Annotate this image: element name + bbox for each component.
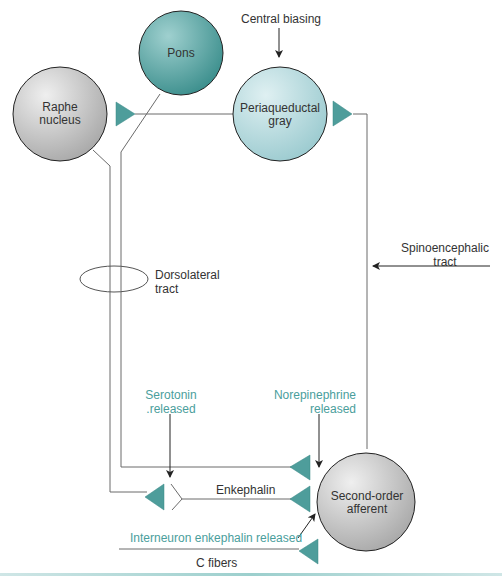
pag-label-line2: gray (232, 115, 328, 128)
pag-label: Periaqueductal gray (232, 102, 328, 128)
second-order-label-line2: afferent (322, 503, 412, 516)
norepinephrine-released-label: Norepinephrine released (268, 388, 356, 416)
enkephalin-label: Enkephalin (216, 483, 275, 497)
pons-label: Pons (151, 47, 211, 60)
raphe-label: Raphe nucleus (20, 101, 100, 127)
c-fibers-label: C fibers (196, 556, 237, 570)
spinoencephalic-line1: Spinoencephalic (395, 241, 495, 255)
serotonin-released-label: Serotonin .released (141, 388, 201, 416)
spinoencephalic-tract-label: Spinoencephalic tract (395, 241, 495, 269)
raphe-terminal-icon (116, 102, 135, 126)
pag-terminal-icon (333, 101, 352, 126)
serotonin-line1: Serotonin (141, 388, 201, 402)
enkephalin-terminal-icon (290, 486, 310, 512)
norepinephrine-line2: released (268, 402, 356, 416)
dorsolateral-tract-ellipse (80, 266, 148, 292)
central-biasing-label: Central biasing (241, 12, 321, 26)
spinoencephalic-line2: tract (395, 255, 495, 269)
raphe-label-line2: nucleus (20, 114, 100, 127)
interneuron-enkephalin-label: Interneuron enkephalin released (130, 531, 302, 545)
interneuron-chevron (171, 484, 182, 510)
dorsolateral-tract-label: Dorsolateral tract (155, 268, 220, 296)
bottom-divider (0, 573, 502, 576)
dorsolateral-line2: tract (155, 282, 220, 296)
raphe-descending-axon (93, 150, 147, 492)
second-order-label: Second-order afferent (322, 490, 412, 516)
dorsolateral-line1: Dorsolateral (155, 268, 220, 282)
pons-terminal-icon (290, 455, 310, 480)
norepinephrine-line1: Norepinephrine (268, 388, 356, 402)
raphe-inhibitory-terminal-icon (145, 484, 164, 510)
serotonin-line2: .released (141, 402, 201, 416)
